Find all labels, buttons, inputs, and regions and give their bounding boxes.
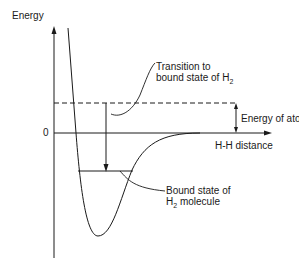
energy-of-atoms-label: Energy of atoms bbox=[241, 113, 299, 124]
transition-label-line1: Transition to bbox=[156, 61, 233, 72]
zero-label: 0 bbox=[43, 127, 49, 138]
bound-state-label-line1: Bound state of bbox=[166, 185, 231, 196]
transition-label-subscript: 2 bbox=[229, 78, 233, 85]
y-axis-label: Energy bbox=[12, 10, 44, 21]
x-axis-arrowhead bbox=[264, 131, 272, 136]
energy-of-atoms-arrowhead-down bbox=[234, 127, 238, 133]
bound-state-leader bbox=[120, 171, 165, 191]
bound-state-subscript: 2 bbox=[173, 202, 177, 209]
x-axis-label: H-H distance bbox=[215, 140, 273, 151]
transition-label: Transition to bound state of H2 bbox=[156, 61, 233, 84]
transition-label-line2: bound state of H2 bbox=[156, 72, 233, 84]
bound-state-label: Bound state of H2 molecule bbox=[166, 185, 231, 208]
bound-state-molecule: molecule bbox=[177, 196, 220, 207]
transition-label-text: bound state of H bbox=[156, 72, 229, 83]
bound-state-label-line2: H2 molecule bbox=[166, 196, 231, 208]
transition-leader bbox=[111, 63, 155, 115]
y-axis-arrowhead bbox=[52, 26, 57, 34]
energy-of-atoms-arrowhead-up bbox=[234, 103, 238, 109]
